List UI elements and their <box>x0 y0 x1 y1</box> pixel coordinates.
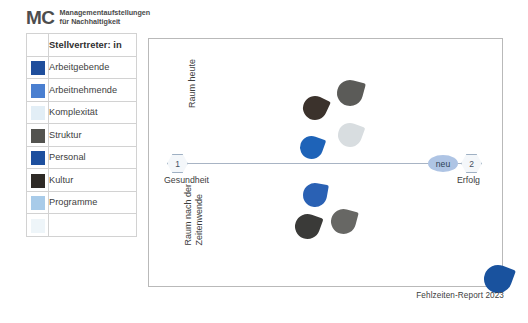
legend-swatch-cell <box>27 191 49 214</box>
legend-color-swatch <box>31 129 45 143</box>
data-point-marker[interactable] <box>301 181 329 209</box>
legend-header-swatch-cell <box>27 34 49 57</box>
region-label-zeitenwende-line1: Raum nach der <box>183 184 193 246</box>
legend-swatch-cell <box>27 101 49 124</box>
legend-swatch-cell <box>27 169 49 192</box>
data-point-marker[interactable] <box>299 92 331 124</box>
region-label-raum-zeitenwende: Raum nach der Zeitenwende <box>183 184 205 246</box>
legend-color-swatch <box>31 61 45 75</box>
legend-row[interactable]: Arbeitgebende <box>27 56 137 79</box>
legend-swatch-cell <box>27 79 49 102</box>
region-label-raum-heute: Raum heute <box>187 59 198 108</box>
legend-color-swatch <box>31 84 45 98</box>
legend-color-swatch <box>31 219 45 233</box>
axis-marker-1-label: 1 <box>175 159 180 169</box>
legend-row[interactable]: Struktur <box>27 124 137 147</box>
axis-label-gesundheit: Gesundheit <box>164 175 209 185</box>
data-point-marker[interactable] <box>334 77 366 109</box>
legend-body: Stellvertreter: in ArbeitgebendeArbeitne… <box>27 34 137 237</box>
legend-swatch-cell <box>27 214 49 237</box>
brand-subtitle: Managementaufstellungen für Nachhaltigke… <box>60 7 151 26</box>
axis-marker-2-label: 2 <box>469 159 474 169</box>
chart-panel: Raum heute Raum nach der Zeitenwende 1 n… <box>148 38 503 287</box>
legend-swatch-cell <box>27 146 49 169</box>
axis-marker-1[interactable]: 1 <box>167 154 188 173</box>
data-point-marker[interactable] <box>297 133 326 162</box>
legend-color-swatch <box>31 106 45 120</box>
data-point-marker[interactable] <box>328 206 359 237</box>
brand-subtitle-line2: für Nachhaltigkeit <box>60 18 151 27</box>
legend-item-label: Kultur <box>49 169 137 192</box>
axis-label-erfolg: Erfolg <box>457 175 480 185</box>
legend-color-swatch <box>31 196 45 210</box>
legend-table: Stellvertreter: in ArbeitgebendeArbeitne… <box>26 33 137 237</box>
legend-color-swatch <box>31 151 45 165</box>
legend-row[interactable]: Personal <box>27 146 137 169</box>
axis-badge-neu-label: neu <box>436 159 450 169</box>
legend-item-label: Struktur <box>49 124 137 147</box>
legend-row[interactable]: Programme <box>27 191 137 214</box>
legend-item-label: Arbeitgebende <box>49 56 137 79</box>
legend-row[interactable] <box>27 214 137 237</box>
brand-mark: MC <box>26 7 55 27</box>
brand-logo: MC Managementaufstellungen für Nachhalti… <box>26 7 150 27</box>
legend-item-label <box>49 214 137 237</box>
axis-marker-2[interactable]: 2 <box>461 154 482 173</box>
region-label-zeitenwende-line2: Zeitenwende <box>194 194 204 246</box>
legend-header-label: Stellvertreter: in <box>49 34 137 57</box>
legend-header-row: Stellvertreter: in <box>27 34 137 57</box>
legend-item-label: Komplexität <box>49 101 137 124</box>
legend-item-label: Programme <box>49 191 137 214</box>
legend-item-label: Personal <box>49 146 137 169</box>
legend-color-swatch <box>31 174 45 188</box>
footer-source: Fehlzeiten-Report 2023 <box>416 291 504 300</box>
legend-row[interactable]: Kultur <box>27 169 137 192</box>
legend-item-label: Arbeitnehmende <box>49 79 137 102</box>
axis-badge-neu[interactable]: neu <box>428 155 458 172</box>
legend-row[interactable]: Arbeitnehmende <box>27 79 137 102</box>
data-point-marker[interactable] <box>335 120 366 151</box>
data-point-marker[interactable] <box>292 211 324 243</box>
legend-row[interactable]: Komplexität <box>27 101 137 124</box>
region-label-raum-heute-text: Raum heute <box>187 59 197 108</box>
legend-swatch-cell <box>27 124 49 147</box>
legend-swatch-cell <box>27 56 49 79</box>
